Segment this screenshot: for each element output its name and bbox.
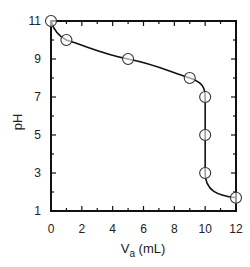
x-tick-label: 2: [78, 222, 85, 236]
data-point-marker: [200, 168, 211, 179]
x-tick-label: 10: [198, 222, 212, 236]
data-point-marker: [231, 192, 242, 203]
y-tick-labels: 1357911: [29, 14, 42, 218]
y-tick-label: 9: [34, 52, 41, 66]
data-point-marker: [184, 73, 195, 84]
data-point-marker: [61, 35, 72, 46]
x-tick-label: 0: [48, 222, 55, 236]
y-axis-label: pH: [10, 114, 25, 131]
x-tick-labels: 024681012: [48, 222, 243, 236]
x-axis-label-unit: (mL): [135, 241, 165, 256]
x-tick-label: 6: [140, 222, 147, 236]
y-tick-label: 5: [34, 128, 41, 142]
x-axis-label: Va (mL): [121, 241, 166, 259]
y-tick-label: 11: [29, 14, 42, 28]
data-point-marker: [46, 16, 57, 27]
data-point-marker: [123, 54, 134, 65]
y-tick-label: 7: [34, 90, 41, 104]
plot-border: [51, 21, 236, 211]
axis-ticks: [51, 21, 236, 211]
titration-chart: 024681012 1357911 pH Va (mL): [0, 0, 250, 267]
data-point-marker: [200, 130, 211, 141]
y-tick-label: 3: [34, 166, 41, 180]
x-tick-label: 12: [229, 222, 243, 236]
x-tick-label: 8: [171, 222, 178, 236]
data-point-marker: [200, 92, 211, 103]
x-axis-label-main: V: [121, 241, 130, 256]
y-tick-label: 1: [34, 204, 41, 218]
plot-frame: [51, 21, 236, 211]
x-tick-label: 4: [109, 222, 116, 236]
